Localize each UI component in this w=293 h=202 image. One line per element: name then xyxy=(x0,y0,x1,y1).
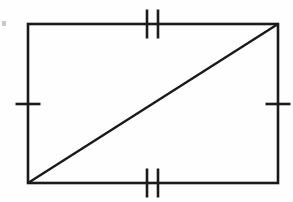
geometry-diagram xyxy=(0,0,293,202)
figure-container: Rectangle with one diagonal and congruen… xyxy=(0,0,293,202)
scan-speck-icon xyxy=(2,21,6,26)
